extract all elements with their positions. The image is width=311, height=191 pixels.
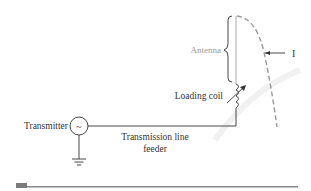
loading-coil-label: Loading coil [175,91,224,101]
loaded-antenna-diagram: Antenna I Loading coil Transmission line… [0,0,311,191]
ground-icon [72,159,86,165]
current-arrow-head [265,51,270,55]
loading-coil-icon [236,84,239,108]
antenna-brace [224,16,232,82]
current-label: I [292,48,295,59]
bottom-rule-block [16,183,27,188]
transmitter-label: Transmitter [24,121,69,131]
transmission-line-label-2: feeder [143,144,168,154]
bottom-rule [27,186,298,188]
watermark-arc [215,70,300,140]
transmission-line-label-1: Transmission line [121,132,188,142]
antenna-label: Antenna [191,45,222,55]
ac-source-symbol: ~ [76,121,82,132]
